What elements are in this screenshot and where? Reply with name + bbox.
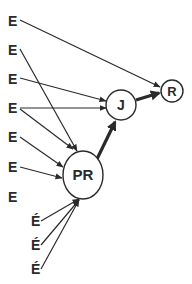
node-r-label: R — [167, 84, 177, 99]
node-ea1-label: É — [31, 213, 40, 229]
node-e1-label: E — [8, 13, 17, 29]
node-ea2-label: É — [31, 237, 40, 253]
flow-diagram: E E E E E E E É É É PR J R — [0, 0, 192, 284]
node-e3-label: E — [8, 71, 17, 87]
edge-e3-j — [20, 78, 106, 101]
edge-ea2-pr — [41, 200, 79, 245]
node-e6-label: E — [8, 159, 17, 175]
edge-e1-r — [20, 20, 160, 87]
node-e4-label: E — [8, 100, 17, 116]
node-pr-label: PR — [73, 166, 94, 183]
edge-e2-pr — [20, 49, 77, 151]
edge-e6-pr — [20, 167, 62, 178]
edge-e5-pr — [20, 137, 63, 167]
node-ea3-label: É — [31, 261, 40, 277]
edge-j-r — [136, 93, 159, 100]
node-j-label: J — [117, 97, 125, 113]
node-e7-label: E — [8, 189, 17, 205]
edge-pr-j — [97, 122, 115, 159]
node-e5-label: E — [8, 129, 17, 145]
node-e2-label: E — [8, 42, 17, 58]
